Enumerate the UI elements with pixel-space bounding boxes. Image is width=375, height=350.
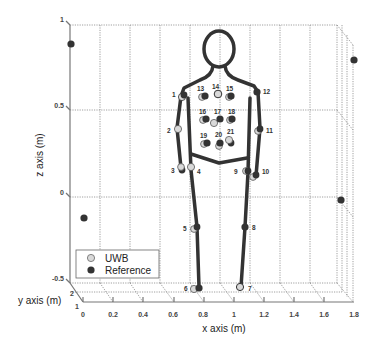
z-tick-labels: 1 0.5 0 -0.5 (52, 16, 64, 282)
marker-label: 13 (197, 85, 205, 92)
marker-label: 6 (184, 285, 188, 292)
marker-label: 18 (228, 108, 236, 115)
uwb-body-marker-3d-chart: 0 0.2 0.4 0.6 0.8 1 1.2 1.4 1.6 1.8 1 0.… (0, 0, 375, 350)
x-tick: 1 (232, 311, 236, 318)
marker-label: 21 (227, 128, 235, 135)
x-tick: 1.8 (349, 311, 359, 318)
x-tick: 0 (81, 311, 85, 318)
marker-label: 10 (262, 168, 270, 175)
marker-label: 20 (215, 131, 223, 138)
z-tick: 1 (60, 16, 64, 23)
x-tick: 0.6 (168, 311, 178, 318)
marker-label: 7 (248, 285, 252, 292)
x-tick: 0.8 (198, 311, 208, 318)
marker-label: 2 (167, 127, 171, 134)
marker-label: 4 (197, 168, 201, 175)
x-tick: 1.6 (319, 311, 329, 318)
legend-reference-icon (87, 266, 94, 273)
x-tick: 1.2 (259, 311, 269, 318)
body-figure (177, 31, 260, 287)
x-tick: 1.4 (289, 311, 299, 318)
marker-label: 11 (266, 127, 273, 134)
marker-label: 16 (199, 108, 207, 115)
marker-label: 12 (263, 88, 271, 95)
y-tick-labels: 2 1 (70, 290, 79, 310)
y-tick: 2 (70, 290, 74, 297)
marker-label: 9 (234, 168, 238, 175)
legend-uwb-icon (87, 254, 94, 261)
y-axis-title: y axis (m) (18, 295, 61, 306)
marker-label: 5 (183, 225, 187, 232)
marker-label: 3 (171, 167, 175, 174)
marker-label: 14 (212, 83, 220, 90)
marker-label: 1 (172, 91, 176, 98)
marker-label: 19 (200, 132, 208, 139)
legend-reference-label: Reference (105, 265, 152, 276)
z-tick: 0.5 (54, 102, 64, 109)
z-tick: 0 (60, 189, 64, 196)
marker-label: 17 (214, 108, 222, 115)
marker-label: 8 (252, 224, 256, 231)
y-tick: 1 (75, 303, 79, 310)
x-tick: 0.2 (108, 311, 118, 318)
x-tick: 0.4 (138, 311, 148, 318)
legend-uwb-label: UWB (105, 253, 129, 264)
marker-label: 15 (226, 85, 234, 92)
z-tick: -0.5 (52, 275, 64, 282)
x-axis-title: x axis (m) (202, 323, 245, 334)
legend: UWB Reference (76, 250, 159, 278)
z-axis-title: z axis (m) (34, 133, 45, 176)
x-tick-labels: 0 0.2 0.4 0.6 0.8 1 1.2 1.4 1.6 1.8 (81, 311, 359, 318)
